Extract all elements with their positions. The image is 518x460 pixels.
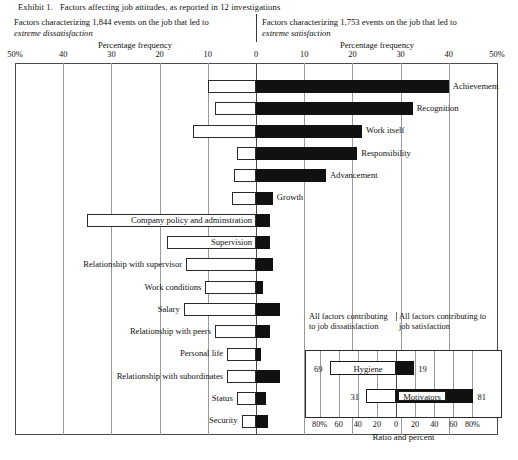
bar-positive	[256, 370, 280, 383]
exhibit-title-text: Factors affecting job attitudes, as repo…	[60, 2, 280, 12]
axis-tick-40: 40	[445, 50, 453, 59]
bar-negative	[215, 102, 256, 115]
inset-gridline-20	[415, 351, 416, 417]
inset-gridline-60	[453, 351, 454, 417]
axis-tick-10: 10	[204, 50, 212, 59]
bar-negative	[237, 147, 256, 160]
inset-axis-tick-40: 40	[430, 420, 438, 429]
bar-label: Responsibility	[361, 149, 411, 158]
bar-negative	[234, 169, 256, 182]
bar-negative	[242, 415, 256, 428]
bar-positive	[256, 415, 268, 428]
inset-value-negative: 69	[314, 364, 323, 374]
bar-negative	[186, 258, 256, 271]
bar-row: Achievement	[15, 80, 497, 93]
inset-caption-left: All factors contributing to job dissatis…	[309, 312, 393, 332]
axis-title-left: Percentage frequency	[14, 40, 256, 50]
bar-positive	[256, 281, 263, 294]
bar-label: Relationship with subordinates	[117, 372, 223, 381]
bar-label: Advancement	[330, 171, 378, 180]
bar-positive	[256, 102, 413, 115]
bar-row: Company policy and adminstration	[15, 214, 497, 227]
inset-value-negative: 31	[350, 392, 359, 402]
bar-negative	[205, 281, 256, 294]
axis-tick-20: 20	[348, 50, 356, 59]
inset-value-positive: 19	[418, 364, 427, 374]
bar-positive	[256, 214, 270, 227]
inset-chart: 6919Hygiene3181Motivators	[305, 350, 502, 418]
bar-label: Work itself	[366, 126, 404, 135]
bar-positive	[256, 169, 326, 182]
bar-positive	[256, 125, 362, 138]
inset-axis-tick-40: 40	[354, 420, 362, 429]
bar-label: Personal life	[180, 349, 223, 358]
bar-row: Supervision	[15, 236, 497, 249]
bar-positive	[256, 258, 273, 271]
bar-negative	[208, 80, 256, 93]
inset-value-positive: 81	[477, 392, 486, 402]
bar-positive	[256, 236, 270, 249]
axis-tick-50pct: 50%	[489, 50, 504, 59]
inset-caption-right: All factors contributing to job satisfac…	[399, 312, 489, 332]
inset-axis-title: Ratio and percent	[305, 432, 502, 442]
bar-label: Security	[209, 416, 238, 425]
inset-gridline--80	[320, 351, 321, 417]
inset-bar-positive	[396, 361, 414, 375]
inset-axis-tick-0: 0	[394, 420, 398, 429]
bar-label: Supervision	[211, 238, 252, 247]
bar-label: Achievement	[453, 82, 499, 91]
bar-row: Relationship with supervisor	[15, 258, 497, 271]
inset-gridline-40	[434, 351, 435, 417]
bar-row: Work itself	[15, 125, 497, 138]
axis-tick-10: 10	[300, 50, 308, 59]
axis-tick-0: 0	[254, 50, 258, 59]
header-right-line2: extreme satisfaction	[262, 28, 502, 39]
inset-axis-tick-60: 60	[449, 420, 457, 429]
bar-row: Responsibility	[15, 147, 497, 160]
exhibit-number: Exhibit 1.	[18, 2, 53, 12]
bar-negative	[237, 392, 256, 405]
bar-label: Relationship with peers	[130, 327, 211, 336]
bar-row: Growth	[15, 192, 497, 205]
bar-label: Work conditions	[145, 283, 202, 292]
inset-bar-negative	[366, 389, 396, 403]
bar-row: Work conditions	[15, 281, 497, 294]
header-right: Factors characterizing 1,753 events on t…	[262, 17, 502, 38]
axis-tick-40: 40	[59, 50, 67, 59]
axis-tick-30: 30	[396, 50, 404, 59]
header-left-line1: Factors characterizing 1,844 events on t…	[14, 17, 209, 27]
bar-negative	[227, 370, 256, 383]
bar-row: Recognition	[15, 102, 497, 115]
bar-label: Status	[212, 394, 233, 403]
bar-positive	[256, 392, 266, 405]
bar-positive	[256, 147, 357, 160]
bar-label: Company policy and adminstration	[131, 216, 252, 225]
inset-axis-tick-20: 20	[373, 420, 381, 429]
bar-negative	[227, 348, 256, 361]
bar-row: Advancement	[15, 169, 497, 182]
exhibit-title: Exhibit 1.Factors affecting job attitude…	[18, 2, 280, 12]
bar-positive	[256, 325, 270, 338]
header-divider	[256, 14, 257, 42]
bar-positive	[256, 192, 273, 205]
bar-negative	[215, 325, 256, 338]
bar-negative	[193, 125, 256, 138]
bar-positive	[256, 80, 449, 93]
inset-axis-tick-20: 20	[411, 420, 419, 429]
axis-tick-50pct: 50%	[7, 50, 22, 59]
inset-row-label: Hygiene	[346, 364, 390, 374]
inset-gridline-80	[472, 351, 473, 417]
bar-label: Recognition	[417, 104, 459, 113]
axis-tick-20: 20	[155, 50, 163, 59]
header-right-line1: Factors characterizing 1,753 events on t…	[262, 17, 457, 27]
exhibit-figure: Exhibit 1.Factors affecting job attitude…	[0, 0, 518, 460]
bar-positive	[256, 303, 280, 316]
inset-axis-tick-80pct: 80%	[465, 420, 480, 429]
bar-label: Relationship with supervisor	[83, 260, 182, 269]
bar-label: Growth	[277, 193, 303, 202]
bar-negative	[232, 192, 256, 205]
header-left: Factors characterizing 1,844 events on t…	[14, 17, 250, 38]
inset-axis-tick-60: 60	[335, 420, 343, 429]
bar-label: Salary	[158, 305, 180, 314]
inset-axis-tick-80pct: 80%	[312, 420, 327, 429]
